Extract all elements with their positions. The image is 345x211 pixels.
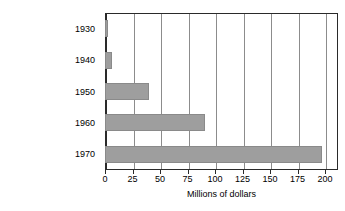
y-axis-label-1940: 1940 (75, 55, 95, 65)
bar-chart: 19301940195019601970 0255075100125150175… (0, 0, 345, 211)
x-tick-label-175: 175 (290, 174, 305, 184)
bar-1960 (105, 114, 205, 131)
x-tick-label-75: 75 (182, 174, 192, 184)
x-tick-label-100: 100 (207, 174, 222, 184)
x-tick-label-25: 25 (127, 174, 137, 184)
x-tick-label-125: 125 (235, 174, 250, 184)
y-axis-label-1930: 1930 (75, 24, 95, 34)
x-axis-title: Millions of dollars (105, 189, 338, 199)
y-axis-labels: 19301940195019601970 (0, 13, 101, 170)
y-axis-label-1950: 1950 (75, 87, 95, 97)
bars-group (105, 13, 338, 170)
x-axis-ticks: 0255075100125150175200 (105, 170, 338, 186)
x-tick-label-200: 200 (317, 174, 332, 184)
bar-1970 (105, 146, 322, 163)
y-axis-label-1970: 1970 (75, 149, 95, 159)
x-tick-label-0: 0 (102, 174, 107, 184)
bar-1940 (105, 52, 112, 69)
x-tick-label-150: 150 (262, 174, 277, 184)
x-tick-label-50: 50 (155, 174, 165, 184)
bar-1950 (105, 83, 149, 100)
y-axis-label-1960: 1960 (75, 118, 95, 128)
bar-1930 (105, 20, 108, 37)
